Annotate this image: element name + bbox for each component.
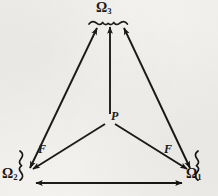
omega-3-subscript: 3 xyxy=(107,6,111,16)
force-left-label: F xyxy=(38,143,46,155)
arrow-p-to-omega1 xyxy=(115,124,187,169)
omega-3-symbol: Ω xyxy=(96,0,107,15)
omega-1-symbol: Ω xyxy=(186,166,197,181)
omega-1-label: Ω1 xyxy=(186,167,201,182)
omega-3-label: Ω3 xyxy=(96,1,111,16)
point-p-label: P xyxy=(111,110,118,122)
omega-2-symbol: Ω xyxy=(2,166,13,181)
brace-omega3 xyxy=(89,22,127,25)
edge-omega3-omega1 xyxy=(124,28,190,168)
brace-omega2 xyxy=(19,151,22,180)
omega-2-label: Ω2 xyxy=(2,167,17,182)
omega-2-subscript: 2 xyxy=(13,172,17,182)
figure-canvas: Ω3 Ω2 Ω1 F F P xyxy=(0,0,218,196)
force-right-label: F xyxy=(164,143,172,155)
omega-1-subscript: 1 xyxy=(197,172,201,182)
